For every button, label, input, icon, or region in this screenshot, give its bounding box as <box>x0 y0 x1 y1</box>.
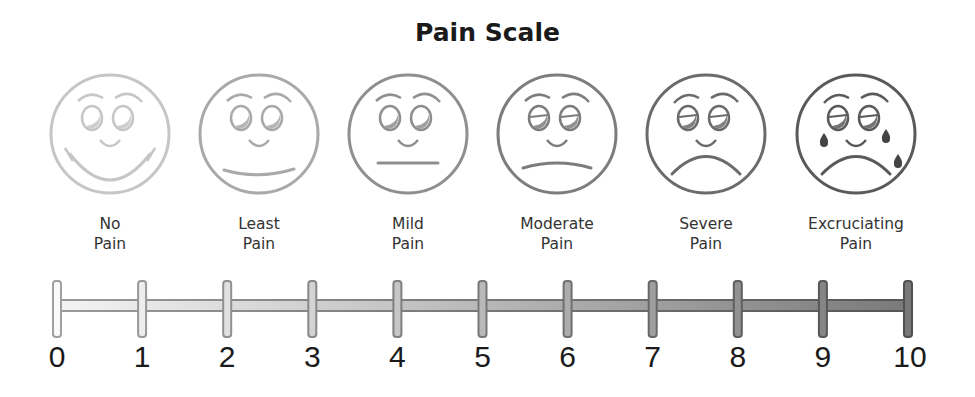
scale-number-0: 0 <box>37 340 77 374</box>
scale-number-4: 4 <box>377 340 417 374</box>
scale-number-3: 3 <box>292 340 332 374</box>
scale-number-7: 7 <box>633 340 673 374</box>
tick-10 <box>904 281 912 337</box>
scale-number-5: 5 <box>463 340 503 374</box>
scale-number-6: 6 <box>548 340 588 374</box>
tick-2 <box>223 281 231 337</box>
tick-1 <box>138 281 146 337</box>
tick-9 <box>819 281 827 337</box>
scale-number-1: 1 <box>122 340 162 374</box>
tick-7 <box>649 281 657 337</box>
tick-5 <box>479 281 487 337</box>
tick-4 <box>393 281 401 337</box>
tick-0 <box>53 281 61 337</box>
pain-scale-bar <box>0 0 975 397</box>
scale-number-8: 8 <box>718 340 758 374</box>
scale-number-2: 2 <box>207 340 247 374</box>
tick-3 <box>308 281 316 337</box>
scale-number-10: 10 <box>890 340 930 374</box>
tick-6 <box>564 281 572 337</box>
tick-8 <box>734 281 742 337</box>
scale-number-9: 9 <box>803 340 843 374</box>
